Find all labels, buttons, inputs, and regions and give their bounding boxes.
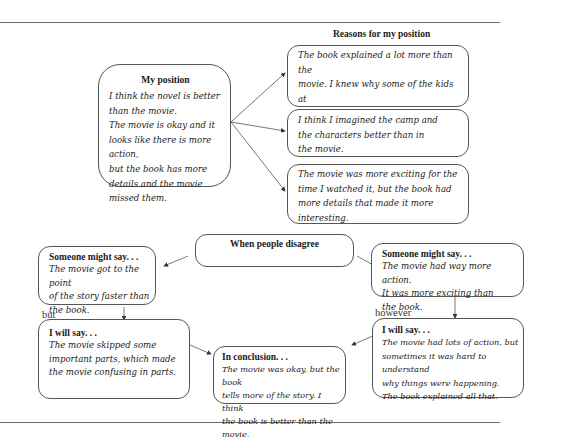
reason-text-2: I think I imagined the camp and the char… [298, 113, 462, 157]
reason-box-1: The book explained a lot more than the m… [287, 45, 469, 107]
left-response-box: I will say. . . The movie skipped some i… [38, 319, 190, 399]
left-counter-box: Someone might say. . . The movie got to … [38, 246, 156, 305]
disagree-heading: When people disagree [196, 238, 353, 250]
position-text: I think the novel is better than the mov… [109, 89, 222, 206]
right-counter-heading: Someone might say. . . [382, 248, 519, 260]
right-counter-text: The movie had way more action. It was mo… [382, 260, 519, 314]
position-box: My position I think the novel is better … [98, 64, 231, 187]
left-counter-text: The movie got to the point of the story … [49, 263, 151, 317]
right-counter-box: Someone might say. . . The movie had way… [371, 243, 524, 297]
reason-box-3: The movie was more exciting for the time… [287, 164, 469, 224]
reasons-title: Reasons for my position [333, 29, 430, 39]
reason-box-2: I think I imagined the camp and the char… [287, 109, 469, 157]
left-counter-heading: Someone might say. . . [49, 251, 151, 263]
right-connector-however: however [375, 307, 411, 318]
conclusion-box: In conclusion. . . The movie was okay, b… [213, 346, 346, 404]
left-response-heading: I will say. . . [49, 327, 185, 339]
position-heading: My position [109, 74, 222, 86]
conclusion-heading: In conclusion. . . [222, 351, 342, 363]
conclusion-text: The movie was okay, but the book tells m… [222, 363, 342, 437]
right-response-heading: I will say. . . [382, 324, 519, 336]
right-response-text: The movie had lots of action, but someti… [382, 336, 519, 404]
left-response-text: The movie skipped some important parts, … [49, 339, 185, 380]
right-response-box: I will say. . . The movie had lots of ac… [372, 318, 524, 398]
disagree-box: When people disagree [195, 234, 354, 267]
reason-text-3: The movie was more exciting for the time… [298, 167, 462, 225]
